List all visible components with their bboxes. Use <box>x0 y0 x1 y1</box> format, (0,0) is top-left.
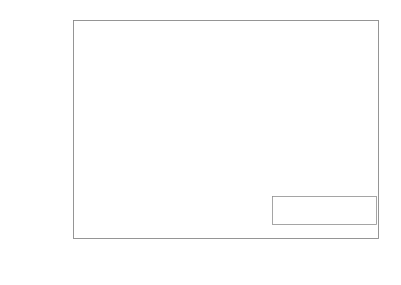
plot-canvas <box>0 0 401 285</box>
probability-plot <box>0 0 401 285</box>
legend-box <box>273 197 377 225</box>
legend <box>273 197 377 225</box>
plot-background <box>0 0 401 285</box>
